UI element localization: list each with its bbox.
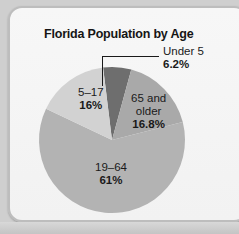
label-19-64: 19–64 61%: [95, 161, 127, 187]
over65-name-line1: 65 and: [131, 92, 166, 105]
adult-percent: 61%: [95, 174, 127, 187]
youth-name: 5–17: [78, 86, 104, 99]
label-65-and-older: 65 and older 16.8%: [131, 92, 166, 131]
adult-name: 19–64: [95, 161, 127, 174]
under5-name: Under 5: [163, 45, 204, 58]
youth-percent: 16%: [78, 99, 104, 112]
pie-chart: [0, 0, 239, 234]
label-under-5: Under 5 6.2%: [163, 45, 204, 71]
under5-leader-vertical: [102, 56, 103, 86]
label-5-17: 5–17 16%: [78, 86, 104, 112]
over65-name-line2: older: [131, 105, 166, 118]
over65-percent: 16.8%: [131, 118, 166, 131]
under5-percent: 6.2%: [163, 58, 204, 71]
under5-leader-horizontal: [102, 56, 159, 57]
